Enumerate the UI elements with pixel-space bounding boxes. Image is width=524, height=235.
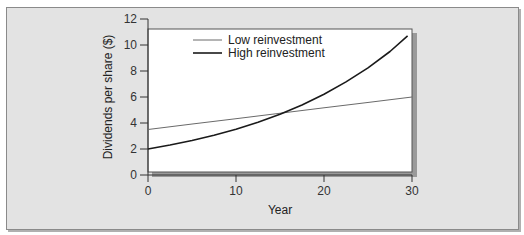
y-tick-label: 8 (130, 64, 137, 78)
line-chart: 0246810120102030 Low reinvestmentHigh re… (0, 0, 524, 235)
x-tick-label: 20 (317, 184, 331, 198)
y-tick-label: 12 (124, 12, 138, 26)
legend-label: Low reinvestment (228, 33, 323, 47)
y-tick-label: 2 (130, 142, 137, 156)
x-tick-label: 0 (145, 184, 152, 198)
x-tick-label: 30 (405, 184, 419, 198)
x-tick-label: 10 (229, 184, 243, 198)
y-axis-title: Dividends per share ($) (101, 35, 115, 160)
y-tick-label: 0 (130, 168, 137, 182)
y-tick-label: 4 (130, 116, 137, 130)
legend-label: High reinvestment (228, 46, 325, 60)
y-tick-label: 10 (124, 38, 138, 52)
x-axis-title: Year (268, 203, 292, 217)
y-tick-label: 6 (130, 90, 137, 104)
